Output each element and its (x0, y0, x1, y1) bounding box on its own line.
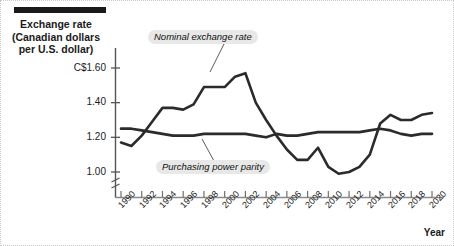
chart-axes (112, 48, 445, 198)
leader-line-nominal (210, 44, 224, 72)
annotation-nominal-exchange-rate: Nominal exchange rate (148, 30, 258, 44)
leader-line-ppp (202, 139, 214, 161)
x-axis-title: Year (424, 227, 445, 238)
y-tick-label: 1.40 (50, 96, 106, 107)
figure-root: Exchange rate (Canadian dollars per U.S.… (0, 0, 454, 246)
y-tick-label: 1.00 (50, 166, 106, 177)
annotation-purchasing-power-parity: Purchasing power parity (156, 160, 270, 174)
data-series-nominal-exchange-rate (121, 73, 432, 174)
y-tick-label: 1.20 (50, 131, 106, 142)
y-tick-label: C$1.60 (50, 62, 106, 73)
data-series-layer (121, 73, 432, 174)
annotation-leader-lines (202, 44, 224, 161)
